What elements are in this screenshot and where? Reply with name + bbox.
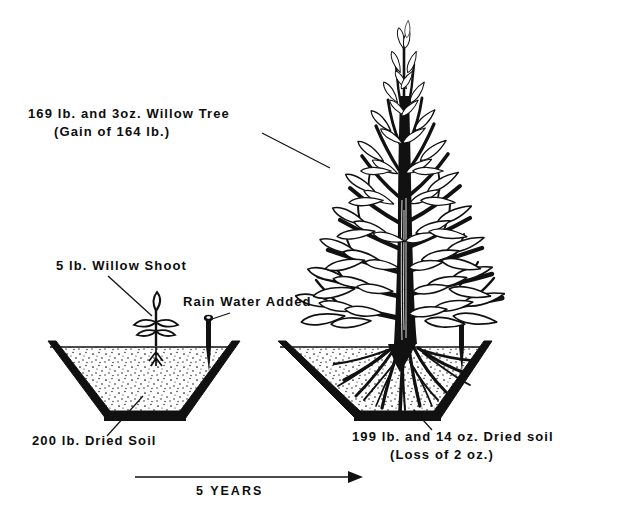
label-dried-soil-after: 199 lb. and 14 oz. Dried soil (Loss of 2… xyxy=(352,428,554,463)
label-rain-water-added: Rain Water Added xyxy=(183,293,312,311)
label-dried-soil-before: 200 lb. Dried Soil xyxy=(32,432,157,450)
leader-line-shoot xyxy=(108,276,152,316)
leader-line-tree xyxy=(262,133,330,168)
label-willow-tree-weight-main: 169 lb. and 3oz. Willow Tree xyxy=(28,106,230,121)
time-arrow xyxy=(135,471,363,483)
label-willow-tree-weight-gain: (Gain of 164 lb.) xyxy=(54,123,230,141)
label-dried-soil-after-loss: (Loss of 2 oz.) xyxy=(390,446,554,464)
right-planter-group xyxy=(278,315,492,421)
left-planter-group xyxy=(48,292,240,421)
label-willow-shoot-weight: 5 lb. Willow Shoot xyxy=(56,257,187,275)
right-vessel-base xyxy=(354,411,441,421)
label-willow-tree-weight: 169 lb. and 3oz. Willow Tree (Gain of 16… xyxy=(28,105,230,140)
label-elapsed-time: 5 YEARS xyxy=(196,483,263,500)
left-vessel-base xyxy=(104,411,186,421)
figure-canvas: 169 lb. and 3oz. Willow Tree (Gain of 16… xyxy=(0,0,628,516)
label-dried-soil-after-main: 199 lb. and 14 oz. Dried soil xyxy=(352,429,554,444)
